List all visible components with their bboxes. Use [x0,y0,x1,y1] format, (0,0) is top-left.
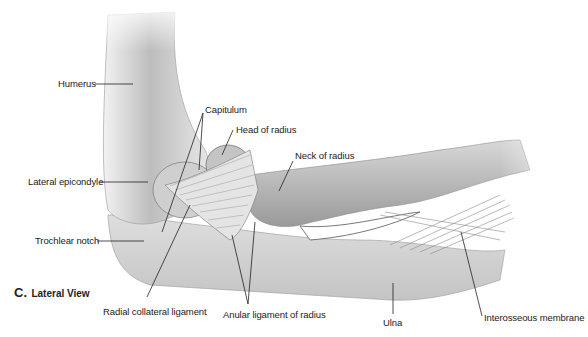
label-humerus: Humerus [58,78,96,89]
figure-letter: C. [14,285,27,300]
label-head-of-radius: Head of radius [236,124,296,135]
label-radial-collateral-ligament: Radial collateral ligament [103,306,207,317]
label-capitulum: Capitulum [205,104,247,115]
label-trochlear-notch: Trochlear notch [35,235,99,246]
figure-view: Lateral View [31,288,89,299]
label-neck-of-radius: Neck of radius [295,150,354,161]
label-interosseous-membrane: Interosseous membrane [484,312,584,323]
label-ulna: Ulna [383,317,402,328]
label-lateral-epicondyle: Lateral epicondyle [28,176,103,187]
figure-title: C. Lateral View [14,283,90,301]
label-anular-ligament-of-radius: Anular ligament of radius [223,309,326,320]
